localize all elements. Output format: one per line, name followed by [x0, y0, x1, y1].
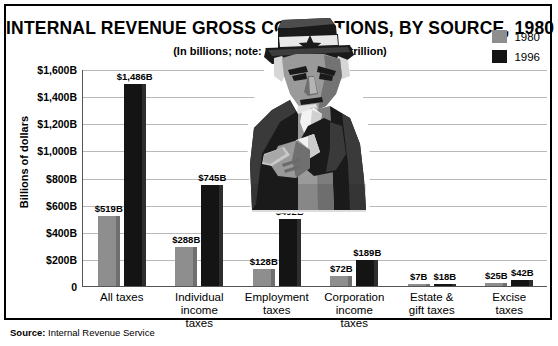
bar-value-label: $1,486B — [117, 71, 153, 82]
x-axis-category-line: Estate & — [393, 291, 471, 304]
bar-side — [348, 276, 352, 286]
legend-item-1980: 1980 — [492, 30, 540, 43]
y-axis-tick-label: $400B — [7, 227, 77, 239]
bar-1996: $18B — [434, 284, 456, 286]
bar-1980: $7B — [408, 284, 430, 286]
bar-face — [253, 269, 271, 286]
x-axis-category-line: Corporation — [316, 291, 394, 304]
bar-1980: $519B — [98, 216, 120, 286]
chart-frame: INTERNAL REVENUE GROSS COLLECTIONS, BY S… — [4, 4, 552, 320]
legend-item-1996: 1996 — [492, 50, 540, 63]
bar-side — [116, 216, 120, 286]
uncle-sam-pointing-illustration — [238, 14, 370, 214]
x-axis-category-label: Individualincometaxes — [161, 291, 239, 330]
bar-side — [297, 219, 301, 286]
x-axis-category-label: Employmenttaxes — [238, 291, 316, 317]
bar-group: $288B$745BIndividualincometaxes — [161, 70, 239, 286]
x-axis-category-line: Excise — [471, 291, 549, 304]
bar-group: $519B$1,486BAll taxes — [83, 70, 161, 286]
bar-side — [374, 260, 378, 286]
bar-face — [279, 219, 297, 286]
x-axis-category-label: Excisetaxes — [471, 291, 549, 317]
bar-side — [503, 283, 507, 286]
bar-face — [408, 284, 426, 286]
bar-1996: $492B — [279, 219, 301, 286]
source-label: Source: — [10, 327, 45, 338]
bar-value-label: $745B — [198, 172, 226, 183]
bar-1980: $25B — [485, 283, 507, 286]
x-axis-category-line: Employment — [238, 291, 316, 304]
bar-face — [434, 284, 452, 286]
bar-side — [271, 269, 275, 286]
bar-1980: $72B — [330, 276, 352, 286]
x-axis-category-line: taxes — [238, 304, 316, 317]
bar-face — [124, 84, 142, 286]
bar-value-label: $72B — [330, 263, 353, 274]
y-axis-tick-label: $200B — [7, 254, 77, 266]
bar-value-label: $7B — [410, 271, 427, 282]
bar-value-label: $18B — [433, 271, 456, 282]
y-axis-tick-label: 0 — [7, 281, 77, 293]
bar-face — [98, 216, 116, 286]
bar-value-label: $189B — [353, 247, 381, 258]
bar-group: $7B$18BEstate &gift taxes — [393, 70, 471, 286]
bar-side — [426, 284, 430, 286]
bar-value-label: $42B — [511, 267, 534, 278]
chart-figure: INTERNAL REVENUE GROSS COLLECTIONS, BY S… — [0, 0, 558, 346]
bar-1980: $288B — [175, 247, 197, 286]
source-value: Internal Revenue Service — [48, 327, 155, 338]
y-axis-tick-label: $800B — [7, 173, 77, 185]
bar-face — [356, 260, 374, 286]
legend-label-1980: 1980 — [514, 31, 540, 43]
bar-face — [330, 276, 348, 286]
x-axis-category-line: Individual — [161, 291, 239, 304]
bar-value-label: $25B — [485, 270, 508, 281]
bar-side — [219, 185, 223, 286]
x-axis-category-line: taxes — [161, 317, 239, 330]
x-axis-category-line: income — [161, 304, 239, 317]
y-axis-tick-label: $1,600B — [7, 64, 77, 76]
x-axis-category-line: All taxes — [83, 291, 161, 304]
bar-1980: $128B — [253, 269, 275, 286]
bar-1996: $189B — [356, 260, 378, 286]
bar-group: $25B$42BExcisetaxes — [471, 70, 549, 286]
bar-side — [452, 284, 456, 286]
bar-value-label: $128B — [250, 256, 278, 267]
y-axis-tick-label: $600B — [7, 200, 77, 212]
legend-swatch-1980 — [492, 30, 507, 43]
y-axis-tick-label: $1,200B — [7, 118, 77, 130]
chart-legend: 1980 1996 — [492, 30, 540, 70]
bar-1996: $1,486B — [124, 84, 146, 286]
x-axis-category-label: Corporationincometaxes — [316, 291, 394, 330]
bar-face — [485, 283, 503, 286]
bar-face — [175, 247, 193, 286]
source-note: Source: Internal Revenue Service — [10, 327, 155, 338]
x-axis-category-line: gift taxes — [393, 304, 471, 317]
bar-value-label: $519B — [95, 203, 123, 214]
x-axis-category-label: All taxes — [83, 291, 161, 304]
y-axis-tick-label: $1,000B — [7, 145, 77, 157]
bar-face — [201, 185, 219, 286]
x-axis-category-line: taxes — [316, 317, 394, 330]
y-axis-tick-label: $1,400B — [7, 91, 77, 103]
bar-side — [193, 247, 197, 286]
x-axis-category-label: Estate &gift taxes — [393, 291, 471, 317]
bar-face — [511, 280, 529, 286]
bar-1996: $745B — [201, 185, 223, 286]
bar-side — [142, 84, 146, 286]
bar-value-label: $288B — [172, 234, 200, 245]
legend-swatch-1996 — [492, 50, 507, 63]
x-axis-category-line: income — [316, 304, 394, 317]
x-axis-category-line: taxes — [471, 304, 549, 317]
legend-label-1996: 1996 — [514, 51, 540, 63]
bar-1996: $42B — [511, 280, 533, 286]
bar-side — [529, 280, 533, 286]
